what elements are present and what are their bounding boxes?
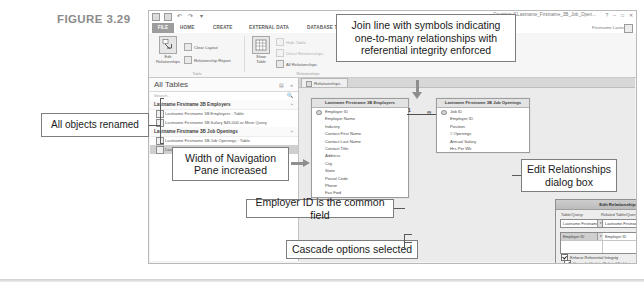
all-relationships-icon — [276, 60, 284, 68]
tab-file[interactable]: FILE — [152, 23, 174, 33]
chevron-down-icon[interactable]: » — [291, 129, 293, 134]
field-address[interactable]: Address — [312, 152, 408, 159]
left-table-combo[interactable]: Lastname Firstname 3B Em ▾ — [560, 219, 605, 228]
field-contact-last-name[interactable]: Contact Last Name — [312, 138, 408, 145]
field-employer-name[interactable]: Employer Name — [312, 115, 408, 122]
save-icon[interactable] — [164, 13, 172, 21]
nav-group-title: Lastname Firstname 3B Job Openings — [154, 129, 238, 134]
field-phone[interactable]: Phone — [312, 182, 408, 189]
nav-item-job-openings-table[interactable]: Lastname Firstname 3B Job Openings : Tab… — [150, 136, 298, 145]
edit-relationships-label: EditRelationships — [155, 55, 181, 64]
access-logo-icon — [152, 13, 160, 21]
edit-relationships-button[interactable]: EditRelationships — [155, 36, 181, 64]
restore-button[interactable]: □ — [621, 12, 624, 18]
field-city[interactable]: City — [312, 160, 408, 167]
relationship-icon — [159, 36, 177, 54]
query-icon — [156, 146, 164, 154]
callout-common-field: Employer ID is the common field — [246, 199, 394, 218]
navigation-menu-icon[interactable]: ▤ — [279, 82, 284, 88]
field-employer-id-fk[interactable]: Employer ID — [437, 115, 529, 122]
hide-table-icon — [276, 38, 284, 46]
checkbox-label: Cascade Update Related Fields — [573, 261, 628, 264]
callout-leader-line — [160, 98, 164, 99]
nav-item-employers-query[interactable]: Lastname Firstname 3B Salary $45,000 or … — [150, 118, 298, 127]
undo-icon[interactable]: ↶ — [176, 13, 183, 20]
field-position[interactable]: Position — [437, 123, 529, 130]
all-relationships-label: All Relationships — [286, 62, 317, 67]
callout-leader-line — [160, 98, 161, 125]
report-icon — [184, 56, 192, 64]
field-openings[interactable]: # Openings — [437, 130, 529, 137]
minimize-button[interactable]: – — [613, 12, 616, 18]
field-job-id[interactable]: Job ID — [437, 108, 529, 115]
checkbox-icon[interactable] — [564, 260, 571, 264]
edit-relationships-dialog[interactable]: Edit Relationships ✕ Table/Query: Relate… — [555, 199, 637, 264]
field-hrs-per-wk[interactable]: Hrs Per Wk — [437, 145, 529, 152]
relationships-tab-icon — [306, 81, 312, 87]
join-many-symbol: ∞ — [427, 109, 431, 115]
field-employer-id[interactable]: Employer ID — [312, 108, 408, 115]
clear-layout-button[interactable]: Clear Layout — [184, 43, 218, 51]
field-mapping-grid[interactable]: Employer ID ▾ Employer ID — [560, 232, 637, 254]
show-table-label: ShowTable — [250, 55, 272, 64]
edit-relationships-dialog-body: Table/Query: Related Table/Query: Lastna… — [556, 209, 637, 264]
ribbon-group-divider — [244, 36, 245, 72]
field-state[interactable]: State — [312, 167, 408, 174]
tab-home[interactable]: HOME — [180, 23, 194, 33]
callout-leader-line — [404, 242, 412, 243]
field-industry[interactable]: Industry — [312, 123, 408, 130]
close-button[interactable]: ✕ — [629, 12, 633, 18]
hide-table-label: Hide Table — [286, 40, 306, 45]
right-field-combo[interactable]: Employer ID — [603, 233, 637, 241]
job-openings-field-list[interactable]: Lastname Firstname 3B Job Openings Job I… — [436, 98, 530, 153]
field-contact-first-name[interactable]: Contact First Name — [312, 130, 408, 137]
field-annual-salary[interactable]: Annual Salary — [437, 138, 529, 145]
field-postal-code[interactable]: Postal Code — [312, 175, 408, 182]
account-avatar-icon[interactable] — [624, 24, 633, 33]
callout-all-objects-renamed: All objects renamed — [41, 113, 149, 137]
show-table-button[interactable]: ShowTable — [250, 36, 272, 64]
callout-edit-relationships-dialog: Edit Relationships dialog box — [521, 159, 617, 192]
ribbon-group-relationships-label: Relationships — [248, 72, 368, 76]
right-table-combo[interactable]: Lastname Firstname 3B Jo ▾ — [602, 219, 637, 228]
chevron-down-icon[interactable]: » — [291, 102, 293, 107]
ribbon-group-tools-label: Tools — [151, 72, 243, 76]
quick-access-toolbar[interactable]: ↶ ↷ ▾ — [152, 13, 205, 21]
nav-item-employers-table[interactable]: Lastname Firstname 3B Employers : Table — [150, 109, 298, 118]
show-table-icon — [252, 36, 270, 54]
cascade-update-checkbox[interactable]: Cascade Update Related Fields — [564, 260, 628, 264]
nav-item-label: Lastname Firstname 3B Salary $45,000 or … — [165, 120, 267, 125]
figure-label: FIGURE 3.29 — [57, 13, 130, 25]
clear-layout-icon — [184, 43, 192, 51]
figure-page: FIGURE 3.29 ↶ ↷ ▾ Creating: f1Lastname_F… — [0, 0, 644, 300]
nav-item-label: Lastname Firstname 3B Job Openings : Tab… — [165, 138, 250, 143]
navigation-pane-title: All Tables — [154, 80, 188, 89]
relationship-report-button[interactable]: Relationship Report — [184, 56, 231, 64]
employers-field-list[interactable]: Lastname Firstname 3B Employers Employer… — [311, 98, 409, 198]
navigation-pane-header[interactable]: All Tables ▤ « — [150, 78, 298, 92]
job-openings-field-list-title: Lastname Firstname 3B Job Openings — [437, 99, 529, 108]
tab-create[interactable]: CREATE — [213, 23, 232, 33]
direct-relationships-button[interactable]: Direct Relationships — [276, 49, 323, 57]
all-relationships-button[interactable]: All Relationships — [276, 60, 317, 68]
callout-leader-line — [404, 234, 412, 235]
tab-external-data[interactable]: EXTERNAL DATA — [249, 23, 289, 33]
customize-qat-icon[interactable]: ▾ — [198, 13, 205, 20]
hide-table-button[interactable]: Hide Table — [276, 38, 306, 46]
callout-nav-pane-width: Width of Navigation Pane increased — [172, 147, 289, 181]
callout-leader-line — [160, 125, 161, 144]
join-line[interactable] — [407, 114, 436, 115]
field-contact-title[interactable]: Contact Title — [312, 145, 408, 152]
shutter-bar-close-icon[interactable]: « — [290, 82, 293, 88]
search-icon: 🔍 — [287, 92, 293, 98]
ribbon-group-tools: EditRelationships Clear Layout Relations… — [151, 33, 243, 77]
direct-relationships-icon — [276, 49, 284, 57]
redo-icon[interactable]: ↷ — [187, 13, 194, 20]
window-controls[interactable]: ? – □ ✕ — [605, 12, 633, 18]
help-button[interactable]: ? — [605, 12, 608, 18]
join-one-symbol: 1 — [408, 108, 411, 113]
left-field-combo[interactable]: Employer ID ▾ — [561, 233, 604, 241]
search-input[interactable]: Search... — [154, 93, 171, 98]
page-edge-shadow — [0, 279, 644, 282]
clear-layout-label: Clear Layout — [194, 45, 218, 50]
